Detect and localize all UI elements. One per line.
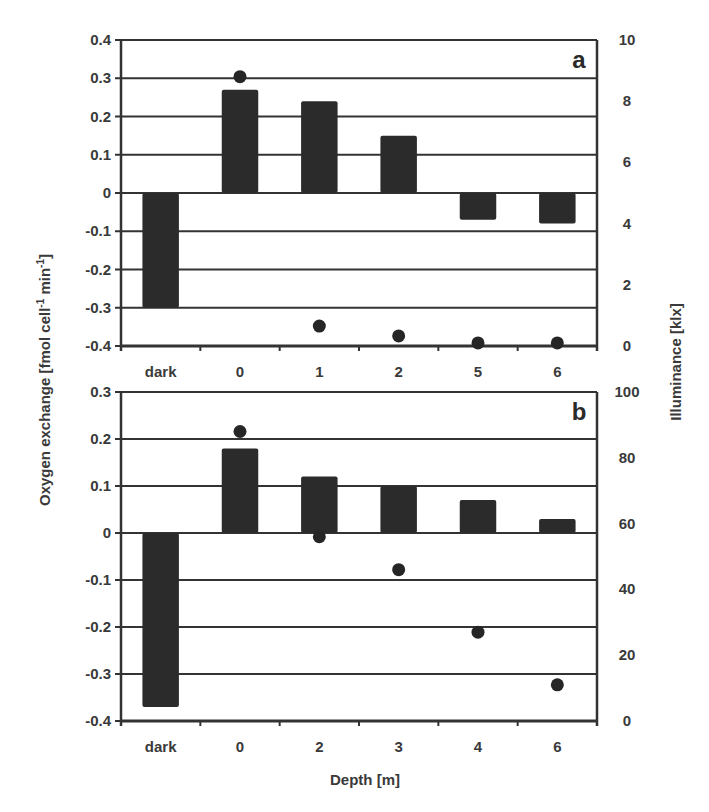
y2-tick-label: 0 xyxy=(623,337,631,354)
bar xyxy=(380,486,416,533)
bar xyxy=(222,448,258,533)
y2-tick-label: 6 xyxy=(623,153,631,170)
data-point xyxy=(472,336,485,349)
x-tick-label: 1 xyxy=(315,363,323,380)
panel-label: a xyxy=(572,46,586,73)
bar xyxy=(539,193,575,224)
y2-axis-title: Illuminance [klx] xyxy=(667,303,684,421)
data-point xyxy=(392,329,405,342)
data-point xyxy=(472,626,485,639)
y-tick-label: -0.1 xyxy=(85,222,111,239)
y2-tick-label: 100 xyxy=(614,383,639,400)
y2-tick-label: 2 xyxy=(623,276,631,293)
y-tick-label: -0.4 xyxy=(85,712,112,729)
bar xyxy=(380,136,416,193)
panel-a: 0.40.30.20.10-0.1-0.2-0.3-0.41086420dark… xyxy=(85,31,635,380)
data-point xyxy=(551,678,564,691)
y-tick-label: 0 xyxy=(103,184,111,201)
data-point xyxy=(313,530,326,543)
y2-tick-label: 0 xyxy=(623,712,631,729)
y2-tick-label: 4 xyxy=(623,215,632,232)
y2-tick-label: 60 xyxy=(619,515,636,532)
y-tick-label: -0.4 xyxy=(85,337,112,354)
y2-tick-label: 80 xyxy=(619,449,636,466)
bar xyxy=(460,193,496,220)
y2-tick-label: 40 xyxy=(619,580,636,597)
x-axis-title: Depth [m] xyxy=(330,771,400,788)
y-tick-label: -0.1 xyxy=(85,571,111,588)
data-point xyxy=(234,425,247,438)
y-tick-label: -0.3 xyxy=(85,299,111,316)
data-point xyxy=(392,563,405,576)
y-tick-label: 0.1 xyxy=(90,477,111,494)
y-tick-label: 0.4 xyxy=(90,31,112,48)
bar xyxy=(142,193,178,308)
bar xyxy=(460,500,496,533)
x-tick-label: dark xyxy=(145,738,177,755)
data-point xyxy=(551,336,564,349)
x-tick-label: dark xyxy=(145,363,177,380)
panel-b: 0.30.20.10-0.1-0.2-0.3-0.4100806040200da… xyxy=(85,383,639,755)
y-tick-label: 0.2 xyxy=(90,430,111,447)
y-tick-label: -0.2 xyxy=(85,618,111,635)
x-tick-label: 0 xyxy=(236,738,244,755)
x-tick-label: 0 xyxy=(236,363,244,380)
chart-figure: 0.40.30.20.10-0.1-0.2-0.3-0.41086420dark… xyxy=(0,0,709,812)
x-tick-label: 5 xyxy=(474,363,482,380)
y-tick-label: 0 xyxy=(103,524,111,541)
data-point xyxy=(313,320,326,333)
x-tick-label: 6 xyxy=(553,363,561,380)
bar xyxy=(222,90,258,193)
y2-tick-label: 8 xyxy=(623,92,631,109)
bar xyxy=(301,477,337,533)
y-tick-label: 0.2 xyxy=(90,108,111,125)
y-tick-label: 0.3 xyxy=(90,69,111,86)
y-tick-label: 0.1 xyxy=(90,146,111,163)
x-tick-label: 6 xyxy=(553,738,561,755)
y-tick-label: 0.3 xyxy=(90,383,111,400)
y-axis-title: Oxygen exchange [fmol cell-1 min-1] xyxy=(35,254,53,506)
x-tick-label: 3 xyxy=(394,738,402,755)
x-tick-label: 4 xyxy=(474,738,483,755)
x-tick-label: 2 xyxy=(394,363,402,380)
panel-label: b xyxy=(572,398,587,425)
bar xyxy=(301,101,337,193)
x-tick-label: 2 xyxy=(315,738,323,755)
data-point xyxy=(234,70,247,83)
y-tick-label: -0.2 xyxy=(85,261,111,278)
bar xyxy=(142,533,178,707)
y2-tick-label: 20 xyxy=(619,646,636,663)
y-tick-label: -0.3 xyxy=(85,665,111,682)
bar xyxy=(539,519,575,533)
y2-tick-label: 10 xyxy=(619,31,636,48)
